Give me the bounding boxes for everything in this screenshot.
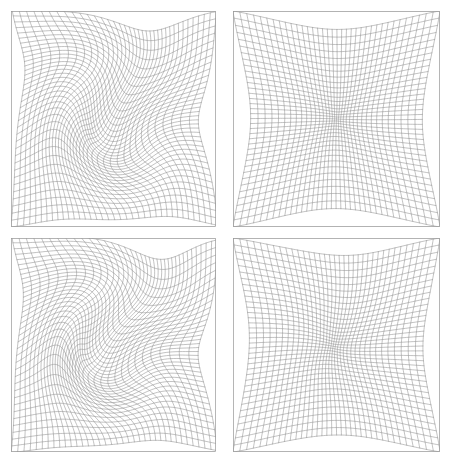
figure-canvas — [0, 0, 449, 463]
mesh-lines — [11, 238, 216, 452]
panel-top-left — [11, 11, 216, 227]
distorted-grid-mesh — [11, 11, 216, 227]
panel-bottom-left — [11, 238, 216, 452]
panel-bottom-right — [233, 238, 440, 452]
panel-top-right — [233, 11, 440, 227]
distorted-grid-mesh — [233, 11, 440, 227]
distorted-grid-mesh — [233, 238, 440, 452]
mesh-lines — [11, 11, 216, 227]
distorted-grid-mesh — [11, 238, 216, 452]
mesh-lines — [233, 11, 440, 227]
mesh-lines — [233, 238, 440, 452]
